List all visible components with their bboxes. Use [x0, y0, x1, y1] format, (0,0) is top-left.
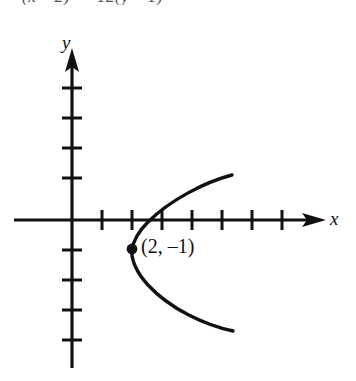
vertex-point-marker: [127, 244, 138, 255]
coordinate-plane-svg: [0, 0, 356, 381]
parabola-figure: (x – 2)² = 12(y – 1): [0, 0, 356, 381]
vertex-coordinate-label: (2, –1): [141, 236, 194, 256]
y-axis-label: y: [62, 33, 70, 52]
x-axis-label: x: [330, 209, 338, 228]
